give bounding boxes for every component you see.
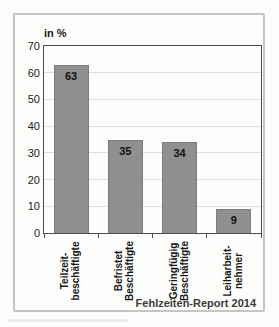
- plot-area: 6335349: [43, 45, 262, 234]
- y-axis-label: 20: [15, 174, 40, 186]
- category-label: BefristetBeschäftigte: [113, 239, 135, 303]
- x-axis-tick: [152, 234, 153, 238]
- y-axis-label: 60: [15, 67, 40, 79]
- y-axis-label: 70: [15, 40, 40, 52]
- x-axis-tick: [206, 234, 207, 238]
- x-axis-tick: [44, 234, 45, 238]
- page: in % 6335349 Fehlzeiten-Report 2014 0102…: [0, 0, 279, 327]
- bar: 9: [216, 209, 251, 233]
- bar-value-label: 34: [163, 147, 196, 159]
- category-label-line: Beschäftigte: [179, 239, 190, 303]
- category-label: Teilzeit-beschäftigte: [59, 239, 81, 303]
- bar: 35: [108, 140, 143, 234]
- unit-label: in %: [44, 27, 67, 39]
- y-axis-label: 40: [15, 120, 40, 132]
- x-axis-tick: [261, 234, 262, 238]
- category-label-line: beschäftigte: [70, 239, 81, 303]
- category-label: GeringfügigBeschäftigte: [168, 239, 190, 303]
- bar-value-label: 35: [109, 145, 142, 157]
- figure-frame: in % 6335349 Fehlzeiten-Report 2014 0102…: [13, 13, 265, 312]
- category-label-line: Teilzeit-: [59, 239, 70, 303]
- scan-artifact: [8, 319, 128, 322]
- category-label-line: Beschäftigte: [124, 239, 135, 303]
- bar: 34: [162, 142, 197, 233]
- category-label-line: Befristet: [113, 239, 124, 303]
- y-axis-label: 30: [15, 147, 40, 159]
- bar-value-label: 9: [217, 214, 250, 226]
- y-axis-label: 50: [15, 93, 40, 105]
- category-label-line: nehmer: [233, 239, 244, 303]
- x-axis-tick: [98, 234, 99, 238]
- category-label-line: Leiharbeit-: [222, 239, 233, 303]
- y-axis-label: 0: [15, 227, 40, 239]
- bar: 63: [54, 65, 89, 233]
- y-axis-label: 10: [15, 200, 40, 212]
- category-label: Leiharbeit-nehmer: [222, 239, 244, 303]
- bar-value-label: 63: [55, 70, 88, 82]
- category-label-line: Geringfügig: [168, 239, 179, 303]
